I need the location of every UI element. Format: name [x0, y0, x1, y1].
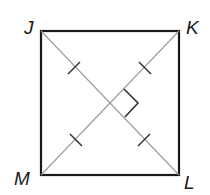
vertex-label-m: M	[14, 168, 30, 189]
square-diagram: J K L M	[0, 0, 210, 195]
tick-mark-m	[70, 134, 82, 146]
tick-mark-l	[138, 134, 150, 146]
tick-mark-k	[139, 62, 151, 74]
vertex-label-k: K	[186, 17, 200, 38]
right-angle-marker	[124, 89, 138, 117]
tick-mark-j	[68, 62, 80, 74]
vertex-label-j: J	[23, 17, 34, 38]
vertex-label-l: L	[184, 172, 195, 193]
